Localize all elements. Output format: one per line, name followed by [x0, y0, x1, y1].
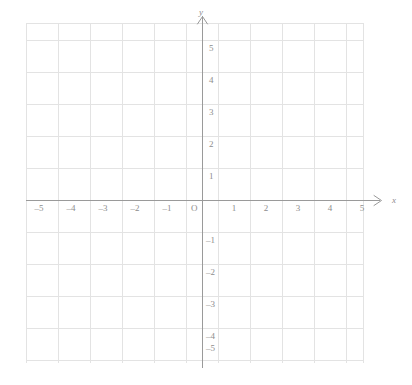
x-tick-label--5: –5	[27, 204, 51, 213]
x-tick-label-4: 4	[318, 204, 342, 213]
x-tick-label--3: –3	[91, 204, 115, 213]
y-tick-label-4: 4	[209, 76, 229, 85]
grid-and-axes-svg	[0, 0, 412, 385]
x-tick-label-3: 3	[286, 204, 310, 213]
x-axis-label: x	[392, 196, 396, 205]
plot-area: –5 –4 –3 –2 –1 1 2 3 4 5 5 4 3 2 1 –1 –2…	[0, 0, 412, 385]
grid-lines-vertical	[27, 23, 364, 363]
y-tick-label-3: 3	[209, 108, 229, 117]
x-tick-label--4: –4	[59, 204, 83, 213]
origin-label: O	[191, 204, 198, 213]
y-tick-label-1: 1	[209, 172, 229, 181]
y-tick-label--1: –1	[206, 236, 226, 245]
y-tick-label-2: 2	[209, 140, 229, 149]
coordinate-plane-figure: –5 –4 –3 –2 –1 1 2 3 4 5 5 4 3 2 1 –1 –2…	[0, 0, 412, 385]
y-tick-label--3: –3	[206, 300, 226, 309]
y-tick-label-5: 5	[209, 44, 229, 53]
y-axis-label: y	[199, 8, 203, 17]
x-tick-label--2: –2	[123, 204, 147, 213]
y-tick-label--2: –2	[206, 268, 226, 277]
x-tick-label-5: 5	[350, 204, 374, 213]
grid-lines-horizontal	[26, 24, 363, 361]
y-tick-label--4: –4	[206, 332, 226, 341]
x-tick-label-1: 1	[222, 204, 246, 213]
x-tick-label-2: 2	[254, 204, 278, 213]
y-tick-label--5: –5	[206, 344, 226, 353]
x-tick-label--1: –1	[155, 204, 179, 213]
axis-lines	[26, 16, 380, 368]
